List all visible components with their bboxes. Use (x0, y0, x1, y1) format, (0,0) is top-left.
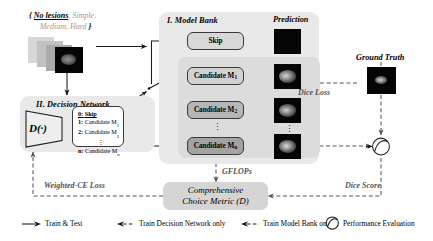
legend-item-train-model-bank: Train Model Bank only (238, 219, 332, 228)
prediction-blob-n (279, 140, 296, 153)
decision-option-1-key: 1: (78, 118, 83, 125)
dice-loss-label: Dice Loss (298, 88, 330, 97)
class-no-lesions: No lesions (34, 11, 68, 20)
prediction-ellipsis: ⋮ (285, 124, 294, 134)
set-open-brace: { (29, 11, 32, 20)
dashed-arrow-left-icon-2 (238, 220, 260, 228)
class-medium: Medium (40, 22, 66, 31)
ground-truth-thumbnail (367, 67, 396, 94)
decision-option-1[interactable]: 1: Candidate M1 (78, 118, 119, 129)
model-candidate-1-label: Candidate M (194, 72, 235, 80)
model-bank-title: I. Model Bank (167, 16, 218, 25)
metric-line-2: Choice Metric (D) (182, 196, 248, 208)
decision-option-0-key: 0: (78, 110, 83, 117)
model-candidate-1-box[interactable]: Candidate M1 (187, 67, 244, 85)
decision-option-1-sub: 1 (117, 123, 119, 128)
legend-label-train-test: Train & Test (45, 219, 82, 228)
model-candidate-n-box[interactable]: Candidate Mn (187, 137, 244, 155)
legend-item-performance-evaluation: Performance Evaluation (325, 216, 415, 230)
model-candidate-2-label: Candidate M (194, 106, 235, 114)
decision-option-2-key: 2: (78, 128, 83, 135)
prediction-thumbnail-2 (274, 98, 301, 123)
decision-option-n-label: Candidate M (85, 147, 117, 154)
decision-option-0-label: Skip (85, 110, 97, 117)
model-candidate-n-label: Candidate M (194, 142, 235, 150)
input-mri-thumbnail (55, 47, 83, 73)
decision-option-list: 0: Skip 1: Candidate M1 2: Candidate M2 … (72, 106, 124, 147)
legend-label-train-model-bank: Train Model Bank only (263, 219, 332, 228)
prediction-blob-2 (279, 104, 296, 117)
metric-line-1: Comprehensive (188, 185, 244, 197)
decision-option-0[interactable]: 0: Skip (78, 110, 119, 118)
model-candidate-2-sub: 2 (234, 108, 237, 114)
comprehensive-choice-metric-box[interactable]: Comprehensive Choice Metric (D) (163, 182, 268, 210)
input-image-stack (28, 37, 98, 73)
set-close-brace: } (89, 22, 92, 31)
dashed-arrow-left-icon-1 (114, 220, 136, 228)
model-candidate-2-box[interactable]: Candidate M2 (187, 101, 244, 119)
decision-option-2-label: Candidate M (85, 128, 117, 135)
legend-item-train-test: Train & Test (22, 219, 82, 228)
decision-option-n-key: n: (78, 147, 84, 154)
class-hard: Hard (70, 22, 87, 31)
ground-truth-blob (375, 76, 387, 84)
ground-truth-title: Ground Truth (356, 53, 404, 62)
model-candidate-n-sub: n (234, 144, 237, 150)
model-bank-ellipsis: ⋮ (213, 122, 222, 132)
model-skip-label: Skip (209, 37, 223, 45)
decision-operator-label: D(·) (29, 122, 47, 134)
gflops-label: GFLOPs (222, 167, 252, 176)
legend-item-train-decision-network: Train Decision Network only (114, 219, 226, 228)
decision-option-n[interactable]: n: Candidate Mn (78, 147, 119, 158)
evaluation-circle-icon (325, 216, 340, 230)
dice-score-label: Dice Score (345, 181, 381, 190)
decision-option-2-sub: 2 (117, 134, 119, 139)
decision-option-n-sub: n (117, 152, 119, 157)
class-simple: Simple (72, 11, 94, 20)
prediction-thumbnail-1 (274, 64, 301, 89)
input-class-set: { No lesions, Simple, Medium, Hard } (29, 11, 96, 32)
solid-arrow-icon (22, 220, 42, 228)
prediction-thumbnail-n (274, 134, 301, 159)
prediction-blob-1 (279, 70, 296, 83)
legend-label-train-decision-network: Train Decision Network only (139, 219, 226, 228)
sep-2: , (66, 22, 68, 31)
sep-0: , (68, 11, 70, 20)
mri-blob (61, 54, 76, 65)
decision-option-2[interactable]: 2: Candidate M2 (78, 128, 119, 139)
model-skip-box[interactable]: Skip (187, 32, 244, 50)
weighted-ce-loss-label: Weighted-CE Loss (44, 181, 105, 190)
prediction-thumbnail-skip (274, 29, 301, 54)
diagram-canvas: { No lesions, Simple, Medium, Hard } II.… (0, 0, 433, 241)
evaluation-node-icon (373, 138, 390, 155)
legend-label-performance-evaluation: Performance Evaluation (343, 219, 415, 228)
model-candidate-1-sub: 1 (234, 74, 237, 80)
sep-1: , (94, 11, 96, 20)
decision-option-1-label: Candidate M (85, 118, 117, 125)
decision-option-ellipsis: ⋮ (78, 139, 119, 147)
prediction-title: Prediction (273, 15, 309, 24)
